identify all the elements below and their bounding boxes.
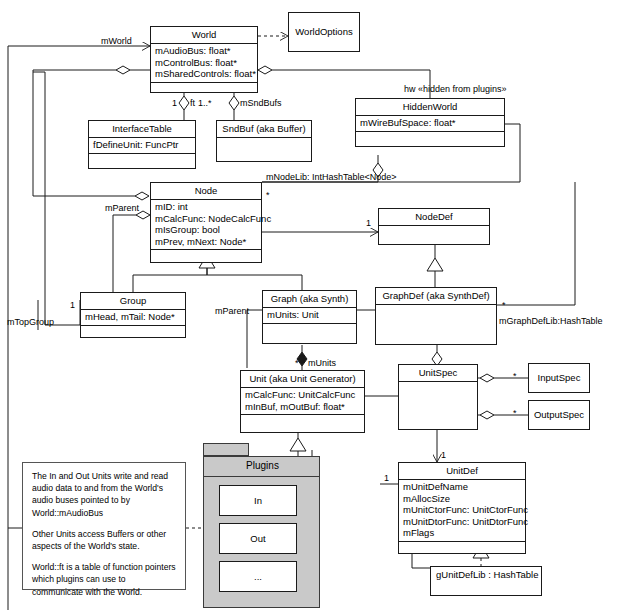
attribute: fDefineUnit: FuncPtr [93, 139, 191, 151]
edge-label-unit-def-mult: 1 [441, 450, 446, 460]
package-plugins[interactable]: Plugins In Out ... [203, 456, 320, 608]
class-node-operations [151, 250, 261, 262]
edge-label-hidden-world: hw «hidden from plugins» [404, 84, 507, 94]
attribute: mFlags [403, 527, 521, 539]
edge-label-m-units-mult: * [295, 358, 299, 368]
class-diagram-canvas: World mAudioBus: float* mControlBus: flo… [0, 0, 617, 613]
class-hidden-world[interactable]: HiddenWorld mWireBufSpace: float* [355, 98, 505, 147]
class-plugin-in-name: In [251, 493, 265, 509]
edge-label-unit-def-left-mult: 1 [384, 473, 389, 483]
class-unit-def-lib-name: gUnitDefLib : HashTable [431, 567, 541, 583]
edge-label-m-parent-graph: mParent [215, 306, 249, 316]
class-unit-def[interactable]: UnitDef mUnitDefName mAllocSize mUnitCto… [398, 462, 526, 554]
class-interface-table-attributes: fDefineUnit: FuncPtr [89, 138, 195, 154]
class-hidden-world-operations [356, 132, 504, 146]
class-plugin-out[interactable]: Out [219, 523, 297, 554]
class-world[interactable]: World mAudioBus: float* mControlBus: flo… [150, 26, 258, 93]
class-interface-table-name: InterfaceTable [89, 121, 195, 138]
class-node-def-operations [379, 226, 489, 248]
class-hidden-world-attributes: mWireBufSpace: float* [356, 116, 504, 132]
class-node-attributes: mID: int mCalcFunc: NodeCalcFunc mIsGrou… [151, 200, 261, 250]
class-interface-table-operations [89, 154, 195, 168]
class-graph-def[interactable]: GraphDef (aka SynthDef) [375, 287, 497, 345]
class-unit[interactable]: Unit (aka Unit Generator) mCalcFunc: Uni… [240, 370, 365, 433]
note-paragraph: Other Units access Buffers or other aspe… [32, 528, 177, 552]
class-plugin-more[interactable]: ... [219, 561, 297, 592]
edge-label-sndbufs-mult: 1..* [198, 98, 212, 108]
class-unit-operations [241, 415, 364, 432]
class-node-name: Node [151, 183, 261, 200]
package-tab [203, 443, 249, 456]
attribute: mInBuf, mOutBuf: float* [245, 401, 360, 413]
edge-label-ft-mult: 1 [172, 98, 177, 108]
class-unit-spec[interactable]: UnitSpec [398, 364, 478, 430]
edge-label-input-spec-mult: * [513, 371, 517, 381]
class-input-spec[interactable]: InputSpec [528, 363, 590, 393]
edge-label-m-world: mWorld [101, 36, 132, 46]
class-unit-name: Unit (aka Unit Generator) [241, 371, 364, 388]
edge-label-node-def-mult: 1 [366, 218, 371, 228]
attribute: mUnitCtorFunc: UnitCtorFunc [403, 504, 521, 516]
class-world-attributes: mAudioBus: float* mControlBus: float* mS… [151, 44, 257, 83]
edge-label-m-top-group: mTopGroup [7, 317, 54, 327]
class-graph-def-name: GraphDef (aka SynthDef) [376, 288, 496, 305]
class-graph-name: Graph (aka Synth) [263, 291, 356, 308]
class-output-spec-name: OutputSpec [531, 407, 587, 423]
class-unit-attributes: mCalcFunc: UnitCalcFunc mInBuf, mOutBuf:… [241, 388, 364, 415]
class-group[interactable]: Group mHead, mTail: Node* [80, 292, 186, 338]
edge-label-m-parent-node: mParent [105, 203, 139, 213]
class-unit-def-attributes: mUnitDefName mAllocSize mUnitCtorFunc: U… [399, 480, 525, 542]
class-world-name: World [151, 27, 257, 44]
attribute: mUnits: Unit [267, 309, 352, 321]
class-snd-buf[interactable]: SndBuf (aka Buffer) [216, 120, 312, 162]
class-group-name: Group [81, 293, 185, 310]
attribute: mIsGroup: bool [155, 224, 257, 236]
class-plugin-in[interactable]: In [219, 485, 297, 516]
edge-label-node-lib-mult: * [266, 190, 270, 200]
class-node-def-name: NodeDef [379, 209, 489, 226]
class-unit-def-name: UnitDef [399, 463, 525, 480]
class-output-spec[interactable]: OutputSpec [528, 400, 590, 430]
attribute: mHead, mTail: Node* [85, 311, 181, 323]
class-unit-def-lib[interactable]: gUnitDefLib : HashTable [430, 566, 542, 596]
note-paragraph: The In and Out Units write and read audi… [32, 470, 177, 519]
class-unit-spec-name: UnitSpec [399, 365, 477, 382]
class-graph-def-operations [376, 305, 496, 347]
class-group-attributes: mHead, mTail: Node* [81, 310, 185, 326]
edge-label-ft-role: ft [190, 98, 195, 108]
class-world-options[interactable]: WorldOptions [288, 12, 360, 52]
attribute: mSharedControls: float* [155, 68, 253, 80]
attribute: mPrev, mNext: Node* [155, 236, 257, 248]
class-input-spec-name: InputSpec [535, 370, 584, 386]
note-fold-corner [175, 463, 185, 473]
package-plugins-label: Plugins [204, 460, 321, 472]
class-unit-def-operations [399, 542, 525, 553]
class-world-options-name: WorldOptions [289, 13, 359, 51]
note-plugins-explanation: The In and Out Units write and read audi… [22, 462, 186, 590]
note-paragraph: World::ft is a table of function pointer… [32, 561, 177, 598]
attribute: mUnitDtorFunc: UnitDtorFunc [403, 516, 521, 528]
attribute: mWireBufSpace: float* [360, 117, 500, 129]
class-graph[interactable]: Graph (aka Synth) mUnits: Unit [262, 290, 357, 344]
attribute: mUnitDefName [403, 481, 521, 493]
class-node[interactable]: Node mID: int mCalcFunc: NodeCalcFunc mI… [150, 182, 262, 263]
class-unit-spec-operations [399, 382, 477, 430]
attribute: mCalcFunc: NodeCalcFunc [155, 213, 257, 225]
class-graph-operations [263, 324, 356, 343]
edge-label-output-spec-mult: * [513, 408, 517, 418]
class-graph-attributes: mUnits: Unit [263, 308, 356, 324]
edge-label-m-top-group-mult: 1 [70, 300, 75, 310]
class-node-def[interactable]: NodeDef [378, 208, 490, 245]
attribute: mControlBus: float* [155, 57, 253, 69]
class-interface-table[interactable]: InterfaceTable fDefineUnit: FuncPtr [88, 120, 196, 169]
edge-label-graph-def-lib: mGraphDefLib:HashTable [499, 316, 603, 326]
attribute: mAllocSize [403, 493, 521, 505]
class-group-operations [81, 326, 185, 337]
attribute: mCalcFunc: UnitCalcFunc [245, 389, 360, 401]
class-world-operations [151, 83, 257, 92]
edge-label-m-units: mUnits [308, 358, 336, 368]
edge-label-sndbufs-role: mSndBufs [240, 98, 282, 108]
divider [204, 476, 319, 477]
attribute: mAudioBus: float* [155, 45, 253, 57]
attribute: mID: int [155, 201, 257, 213]
